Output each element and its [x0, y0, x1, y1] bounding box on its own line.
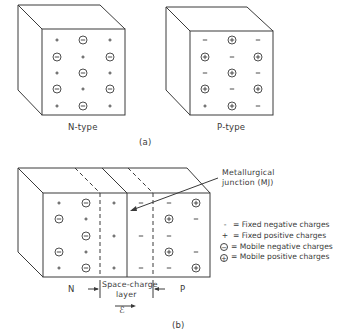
legend-fixed-positive: + = Fixed positive charges: [220, 231, 333, 242]
p-type-label: P-type: [217, 122, 245, 132]
mobile-negative-charge-icon: [55, 248, 63, 256]
mobile-negative-charge-icon: [55, 215, 63, 223]
n-type-label: N-type: [68, 122, 98, 132]
mobile-positive-charge-icon: [254, 53, 262, 61]
mobile-positive-charge-icon: [254, 85, 262, 93]
mobile-negative-charge-icon: [79, 36, 87, 44]
fixed-positive-charge-icon: [84, 250, 87, 253]
mobile-negative-charge-icon: [53, 53, 61, 61]
circled-minus-icon: −: [220, 243, 228, 251]
mobile-positive-charge-icon: [165, 248, 173, 256]
n-region-label: N: [68, 284, 75, 294]
fixed-positive-charge-icon: [112, 201, 115, 204]
caption-b: (b): [172, 320, 185, 330]
fixed-positive-charge-icon: [55, 38, 58, 41]
mobile-negative-charge-icon: [53, 85, 61, 93]
fixed-positive-charge-icon: [108, 38, 111, 41]
mobile-positive-charge-icon: [228, 69, 236, 77]
mobile-negative-charge-icon: [106, 53, 114, 61]
mobile-positive-charge-icon: [228, 102, 236, 110]
junction-label-line2: junction (MJ): [222, 178, 273, 187]
fixed-positive-charge-icon: [55, 104, 58, 107]
mobile-negative-charge-icon: [106, 85, 114, 93]
mobile-negative-charge-icon: [79, 102, 87, 110]
fixed-positive-charge-icon: [108, 104, 111, 107]
mobile-positive-charge-icon: [192, 199, 200, 207]
fixed-positive-charge-icon: [55, 71, 58, 74]
space-charge-label-line2: layer: [116, 290, 137, 299]
field-arrowhead: [131, 304, 136, 308]
plus-icon: +: [220, 231, 230, 242]
minus-icon: -: [220, 220, 230, 231]
mobile-positive-charge-icon: [201, 53, 209, 61]
space-charge-label-line1: Space-charge: [102, 280, 158, 289]
mobile-positive-charge-icon: [165, 215, 173, 223]
fixed-positive-charge-icon: [57, 201, 60, 204]
fixed-positive-charge-icon: [112, 266, 115, 269]
electric-field-symbol: ℰ: [119, 305, 125, 315]
mobile-positive-charge-icon: [192, 264, 200, 272]
fixed-positive-charge-icon: [81, 55, 84, 58]
circled-plus-icon: +: [220, 254, 228, 262]
legend-mobile-positive: + = Mobile positive charges: [220, 252, 333, 263]
p-region-label: P: [180, 284, 185, 294]
mobile-positive-charge-icon: [228, 36, 236, 44]
fixed-positive-charge-icon: [81, 87, 84, 90]
charge-legend: - = Fixed negative charges + = Fixed pos…: [220, 220, 333, 263]
fixed-positive-charge-icon: [84, 217, 87, 220]
mobile-negative-charge-icon: [82, 264, 90, 272]
legend-mobile-negative: − = Mobile negative charges: [220, 242, 333, 253]
junction-arrowhead: [130, 206, 137, 211]
fixed-positive-charge-icon: [112, 234, 115, 237]
mobile-positive-charge-icon: [201, 85, 209, 93]
n-type-cube: [18, 5, 125, 115]
caption-a: (a): [139, 137, 151, 147]
mobile-negative-charge-icon: [82, 232, 90, 240]
fixed-positive-charge-icon: [108, 71, 111, 74]
fixed-positive-charge-icon: [203, 104, 206, 107]
mobile-negative-charge-icon: [82, 199, 90, 207]
fixed-positive-charge-icon: [57, 266, 60, 269]
mobile-negative-charge-icon: [79, 69, 87, 77]
legend-fixed-negative: - = Fixed negative charges: [220, 220, 333, 231]
pn-junction-diagram: [0, 0, 345, 335]
junction-label-line1: Metallurgical: [222, 168, 275, 177]
